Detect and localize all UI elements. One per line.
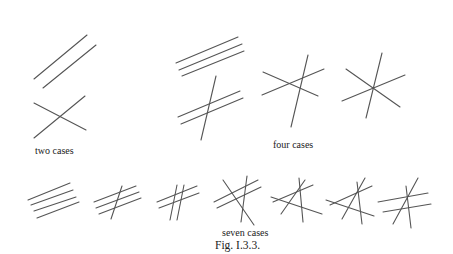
line-segment xyxy=(34,35,87,79)
group-two-cases xyxy=(34,35,96,138)
four-cases-label: four cases xyxy=(273,140,313,150)
case-three-general-position xyxy=(262,55,324,127)
group-four-cases xyxy=(176,37,405,140)
line-segment xyxy=(34,96,85,138)
line-segment xyxy=(170,185,177,220)
case-two-intersecting xyxy=(34,96,86,138)
line-segment xyxy=(378,193,428,202)
line-segment xyxy=(201,76,216,140)
line-segment xyxy=(263,72,318,96)
line-segment xyxy=(182,51,244,76)
case-three-parallel-one-transversal xyxy=(94,186,141,219)
case-two-parallel xyxy=(34,35,96,88)
case-three-concurrent-one-general xyxy=(326,178,374,224)
case-two-parallel-two-general xyxy=(214,176,261,225)
seven-cases-label: seven cases xyxy=(222,228,268,238)
case-three-parallel xyxy=(176,37,244,76)
two-cases-label: two cases xyxy=(35,146,74,156)
case-concurrent-with-parallel-pair xyxy=(378,178,431,228)
line-segment xyxy=(159,193,199,208)
line-segment xyxy=(37,202,79,218)
line-segment xyxy=(179,44,242,70)
case-two-parallel-one-transversal xyxy=(178,76,243,140)
line-segment xyxy=(43,45,96,88)
line-segment xyxy=(177,185,184,220)
case-four-parallel xyxy=(28,183,79,218)
line-segment xyxy=(383,204,431,212)
case-two-concurrent-triple xyxy=(271,178,322,222)
line-segment xyxy=(157,186,197,202)
line-segment xyxy=(34,197,76,211)
line-segment xyxy=(181,98,243,124)
group-seven-cases xyxy=(28,176,431,228)
case-three-concurrent xyxy=(342,53,405,118)
line-segment xyxy=(28,183,70,200)
line-segment xyxy=(273,185,313,202)
line-arrangements-diagram xyxy=(0,0,453,254)
line-segment xyxy=(241,176,247,222)
figure-caption: Fig. I.3.3. xyxy=(215,240,260,252)
line-segment xyxy=(393,178,418,224)
line-segment xyxy=(31,190,73,205)
case-two-pairs-parallel xyxy=(157,185,199,220)
line-segment xyxy=(99,198,141,214)
line-segment xyxy=(326,200,374,216)
line-segment xyxy=(94,186,136,202)
line-segment xyxy=(262,69,324,95)
line-segment xyxy=(111,186,122,219)
cases-layer xyxy=(28,35,431,228)
